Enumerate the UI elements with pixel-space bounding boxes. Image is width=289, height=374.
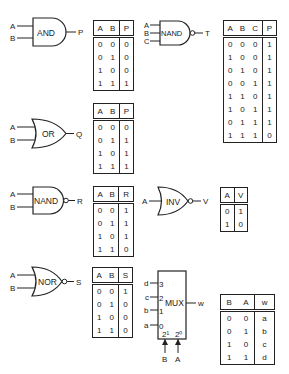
table-row: 011 bbox=[94, 217, 134, 230]
header-p: P bbox=[262, 21, 276, 37]
table-row: 1001 bbox=[224, 51, 277, 64]
header-b: B bbox=[106, 104, 119, 120]
nand3-gate: A B C NAND T bbox=[140, 10, 220, 50]
table-row: 000 bbox=[94, 120, 134, 135]
nor-gate: A B NOR S bbox=[0, 263, 90, 303]
inv-output-label: V bbox=[203, 197, 209, 206]
and-input-b-label: B bbox=[10, 34, 15, 43]
table-row: 00a bbox=[221, 311, 275, 326]
table-row: 10 bbox=[221, 218, 248, 232]
nor-gate-label: NOR bbox=[38, 277, 57, 287]
nand3-input-c-label: C bbox=[144, 37, 150, 46]
header-b: B bbox=[237, 21, 249, 37]
table-row: 111 bbox=[94, 160, 134, 174]
and-truth-table: ABP 000 010 100 111 bbox=[93, 20, 134, 91]
header-a: A bbox=[94, 104, 107, 120]
mux-input-b-label: b bbox=[144, 306, 149, 315]
header-a: A bbox=[238, 295, 255, 311]
table-row: 101 bbox=[94, 147, 134, 160]
nand-output-label: R bbox=[77, 197, 83, 206]
mux-pin-3: 3 bbox=[159, 280, 164, 289]
table-row: 001 bbox=[93, 284, 133, 299]
header-w: w bbox=[255, 295, 275, 311]
table-row: 101 bbox=[94, 230, 134, 243]
mux-block: d c b a 3 2 1 0 MUX w 2¹ 2⁰ B A bbox=[140, 265, 220, 365]
table-row: 001 bbox=[94, 203, 134, 218]
header-r: R bbox=[119, 187, 134, 203]
header-b: B bbox=[106, 187, 119, 203]
table-row: 01b bbox=[221, 325, 275, 338]
arrow-up-icon bbox=[175, 339, 181, 345]
table-row: 0001 bbox=[224, 37, 277, 52]
table-row: 0101 bbox=[224, 64, 277, 77]
and-gate: A B AND P bbox=[0, 10, 90, 50]
or-truth-table: ABP 000 011 101 111 bbox=[93, 103, 134, 174]
and-input-a-label: A bbox=[10, 22, 16, 31]
table-row: 011 bbox=[94, 134, 134, 147]
mux-input-c-label: c bbox=[145, 293, 149, 302]
table-row: 100 bbox=[93, 311, 133, 324]
mux-input-d-label: d bbox=[144, 279, 148, 288]
or-input-b-label: B bbox=[10, 136, 15, 145]
header-b: B bbox=[106, 21, 119, 37]
header-a: A bbox=[224, 21, 237, 37]
nor-input-a-label: A bbox=[10, 271, 16, 280]
mux-select-b-label: B bbox=[162, 355, 167, 364]
mux-label: MUX bbox=[165, 298, 184, 308]
inv-input-a-label: A bbox=[142, 197, 148, 206]
nand-gate: A B NAND R bbox=[0, 180, 90, 220]
table-row: 1101 bbox=[224, 90, 277, 103]
header-b: B bbox=[221, 295, 238, 311]
table-row: 10c bbox=[221, 338, 275, 351]
header-p: P bbox=[119, 21, 133, 37]
header-c: C bbox=[248, 21, 262, 37]
table-row: 11d bbox=[221, 351, 275, 365]
table-row: 110 bbox=[93, 324, 133, 338]
inv-gate-label: INV bbox=[166, 197, 181, 207]
or-gate-label: OR bbox=[42, 129, 55, 139]
mux-select-a-label: A bbox=[175, 355, 181, 364]
mux-input-a-label: a bbox=[144, 321, 149, 330]
header-a: A bbox=[93, 268, 106, 284]
table-row: 111 bbox=[94, 77, 134, 91]
nand3-gate-label: NAND bbox=[161, 29, 183, 38]
mux-truth-table: BAw 00a 01b 10c 11d bbox=[220, 294, 275, 365]
or-gate: A B OR Q bbox=[0, 112, 90, 152]
table-row: 1110 bbox=[224, 129, 277, 143]
arrow-up-icon bbox=[162, 339, 168, 345]
header-a: A bbox=[94, 21, 107, 37]
table-row: 1011 bbox=[224, 103, 277, 116]
mux-select-pin-1: 2¹ bbox=[162, 330, 169, 339]
header-p: P bbox=[119, 104, 133, 120]
table-row: 100 bbox=[94, 64, 134, 77]
inv-truth-table: AV 01 10 bbox=[220, 187, 248, 232]
nand-gate-label: NAND bbox=[34, 196, 58, 206]
table-row: 010 bbox=[93, 298, 133, 311]
nand3-output-label: T bbox=[205, 29, 210, 38]
nor-input-b-label: B bbox=[10, 284, 15, 293]
header-a: A bbox=[221, 188, 235, 204]
header-s: S bbox=[118, 268, 132, 284]
table-row: 000 bbox=[94, 37, 134, 52]
table-row: 0011 bbox=[224, 77, 277, 90]
nor-truth-table: ABS 001 010 100 110 bbox=[92, 267, 133, 338]
nand-truth-table: ABR 001 011 101 110 bbox=[93, 186, 134, 257]
header-a: A bbox=[94, 187, 107, 203]
mux-select-pin-0: 2⁰ bbox=[175, 330, 182, 339]
nand-input-b-label: B bbox=[10, 203, 15, 212]
nand3-truth-table: ABCP 0001 1001 0101 0011 1101 1011 0111 … bbox=[223, 20, 277, 143]
table-row: 0111 bbox=[224, 116, 277, 129]
or-input-a-label: A bbox=[10, 123, 16, 132]
table-row: 010 bbox=[94, 51, 134, 64]
and-output-label: P bbox=[78, 28, 83, 37]
nand-input-a-label: A bbox=[10, 190, 16, 199]
mux-pin-1: 1 bbox=[159, 307, 164, 316]
or-output-label: Q bbox=[76, 130, 82, 139]
header-b: B bbox=[105, 268, 118, 284]
table-row: 01 bbox=[221, 204, 248, 219]
and-gate-label: AND bbox=[37, 28, 55, 38]
table-row: 110 bbox=[94, 243, 134, 257]
inv-gate: A INV V bbox=[140, 180, 220, 220]
mux-pin-2: 2 bbox=[159, 294, 164, 303]
header-v: V bbox=[234, 188, 248, 204]
